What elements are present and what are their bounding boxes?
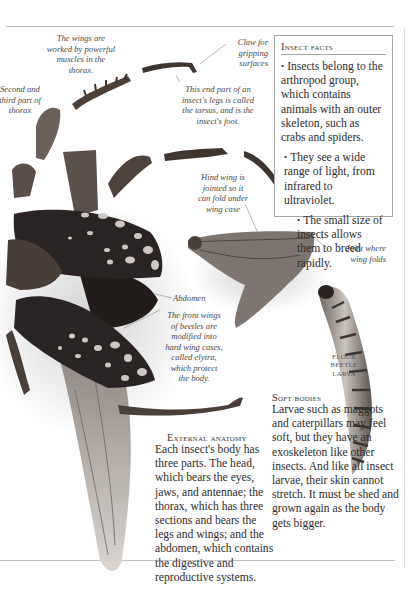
caption-line: modified into [158,331,230,342]
caption-line: The front wings [158,310,230,321]
fact-text: They see a wide range of light, from inf… [284,151,375,207]
larva-label: FLOUR BEETLE LARVA [327,353,361,378]
caption-line: wing case [185,204,261,215]
section-body: Larvae such as maggots and caterpillars … [272,403,402,531]
external-anatomy-section: External anatomy Each insect's body has … [155,432,275,585]
book-page: The wings are worked by powerful muscles… [0,0,410,589]
label-line: LARVA [327,370,361,378]
caption-line: muscles in the [37,54,125,65]
label-line: FLOUR [327,353,361,361]
caption-line: The wings are [37,33,125,44]
bullet-icon: • [284,152,287,162]
caption-line: worked by powerful [37,44,125,55]
section-body: Each insect's body has three parts. The … [155,443,275,585]
caption-line: thorax. [37,65,125,76]
caption-second-third-thorax: Second and third part of thorax [0,84,48,116]
caption-front-wings: The front wings of beetles are modified … [158,310,230,384]
thorax-segment-2 [12,163,36,198]
leg-piece [108,156,152,198]
caption-line: the body. [158,373,230,384]
caption-wings-muscles: The wings are worked by powerful muscles… [37,33,125,75]
tibia-segment [72,74,131,110]
section-title: External anatomy [155,432,275,443]
caption-line: can fold under [185,193,261,204]
caption-hind-wing: Hind wing is jointed so it can fold unde… [185,172,261,214]
caption-line: Second and [0,84,48,95]
bullet-icon: • [281,61,284,71]
soft-bodies-section: Soft bodies Larvae such as maggots and c… [272,392,402,531]
caption-abdomen: Abdomen [173,293,223,304]
caption-line: gripping [218,48,268,59]
label-line: BEETLE [327,361,361,369]
caption-line: thorax [0,105,48,116]
fact-item: •They see a wide range of light, from in… [281,150,386,208]
caption-line: hard wing cases, [158,342,230,353]
fact-item: •The small size of insects allows them t… [281,213,386,271]
caption-line: Claw for [218,37,268,48]
caption-line: which protect [158,363,230,374]
caption-line: Abdomen [173,293,205,303]
tarsus-segment [142,62,197,73]
hind-wing-extended [60,360,131,571]
section-title: Soft bodies [272,392,402,403]
caption-line: called elytra, [158,352,230,363]
insect-facts-box: Insect facts •Insects belong to the arth… [274,35,393,217]
fact-text: The small size of insects allows them to… [297,214,383,270]
caption-line: insect's legs is called [168,95,268,106]
caption-line: insect's foot. [168,116,268,127]
caption-line: third part of [0,95,48,106]
caption-line: Hind wing is [185,172,261,183]
tibia-piece-2 [164,148,228,161]
caption-tarsus: This end part of an insect's legs is cal… [168,84,268,126]
caption-line: surfaces [218,58,268,69]
bullet-icon: • [297,215,300,225]
thorax-segment-1 [36,108,60,160]
caption-line: of beetles are [158,321,230,332]
caption-line: This end part of an [168,84,268,95]
fact-item: •Insects belong to the arthropod group, … [281,59,386,145]
insect-facts-title: Insect facts [281,41,386,55]
fact-text: Insects belong to the arthropod group, w… [281,60,383,144]
caption-claw: Claw for gripping surfaces [218,37,268,69]
caption-line: jointed so it [185,183,261,194]
caption-line: the tarsus, and is the [168,105,268,116]
